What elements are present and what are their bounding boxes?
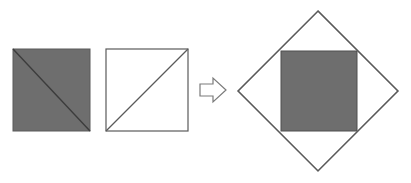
- white-square-group: [106, 49, 188, 131]
- composite-figure-group: [238, 11, 398, 171]
- inscribed-shaded-square: [281, 51, 357, 131]
- right-arrow-icon: [200, 78, 226, 102]
- shaded-square-group: [13, 49, 90, 131]
- right-arrow-outline: [200, 78, 226, 102]
- figure-canvas: [0, 0, 411, 183]
- geometry-figure-svg: [0, 0, 411, 183]
